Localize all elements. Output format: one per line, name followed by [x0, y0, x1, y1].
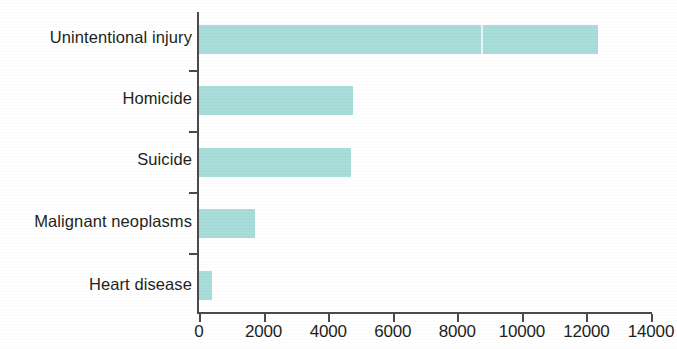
- scan-artifact-line: [481, 25, 483, 55]
- x-axis-tick-label-8000: 8000: [439, 322, 476, 342]
- bar-chart-figure: Unintentional injury Homicide Suicide Ma…: [0, 0, 677, 349]
- x-axis-spine: [198, 312, 652, 314]
- x-axis-tick-label-0: 0: [194, 322, 203, 342]
- y-axis-tick-4: [189, 253, 198, 255]
- x-axis-tick-2000: [264, 314, 266, 322]
- x-axis-tick-14000: [651, 314, 653, 322]
- category-label-unintentional-injury: Unintentional injury: [0, 28, 192, 47]
- bar-malignant-neoplasms: [199, 209, 255, 238]
- category-label-heart-disease: Heart disease: [0, 275, 192, 294]
- category-label-suicide: Suicide: [0, 150, 192, 169]
- bar-homicide: [199, 86, 353, 115]
- y-axis-tick-1: [189, 70, 198, 72]
- x-axis-tick-label-6000: 6000: [374, 322, 411, 342]
- x-axis-tick-label-4000: 4000: [310, 322, 347, 342]
- y-axis-tick-3: [189, 192, 198, 194]
- y-axis-tick-2: [189, 131, 198, 133]
- x-axis-tick-0: [199, 314, 201, 322]
- x-axis-tick-8000: [457, 314, 459, 322]
- x-axis-tick-label-12000: 12000: [563, 322, 609, 342]
- bar-heart-disease: [199, 271, 212, 300]
- x-axis-tick-label-2000: 2000: [245, 322, 282, 342]
- bar-suicide: [199, 148, 351, 177]
- x-axis-tick-12000: [586, 314, 588, 322]
- x-axis-tick-10000: [522, 314, 524, 322]
- x-axis-tick-label-10000: 10000: [499, 322, 545, 342]
- x-axis-tick-4000: [328, 314, 330, 322]
- x-axis-tick-6000: [393, 314, 395, 322]
- category-label-malignant-neoplasms: Malignant neoplasms: [0, 212, 192, 231]
- category-label-homicide: Homicide: [0, 89, 192, 108]
- x-axis-tick-label-14000: 14000: [628, 322, 674, 342]
- bar-unintentional-injury: [199, 25, 598, 54]
